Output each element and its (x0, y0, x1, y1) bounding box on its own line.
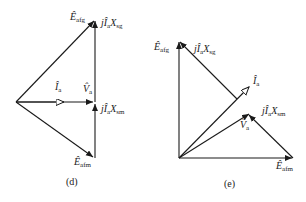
caption-d: (d) (66, 176, 78, 187)
caption-e: (e) (224, 178, 235, 189)
label-j-ia-xsg: jÎaXsg (194, 44, 216, 56)
label-j-ia-xsm: jÎaXsm (101, 104, 125, 116)
label-j-ia-xsm: jÎaXsm (262, 106, 286, 118)
label-e-afg: Êafg (154, 42, 169, 54)
label-e-afm: Êafm (276, 161, 293, 173)
label-e-afg: Êafg (70, 12, 85, 24)
vector-va (179, 114, 249, 158)
label-ia: Îa (55, 82, 61, 94)
diagram-e (179, 42, 293, 158)
label-ia: Îa (253, 76, 259, 88)
vector-ia (179, 87, 249, 158)
vector-j-ia-xsm (249, 115, 293, 158)
label-e-afm: Êafm (74, 157, 91, 169)
label-va: V̂a (240, 120, 249, 132)
vector-e-afm (16, 102, 93, 157)
label-va: V̂a (83, 84, 92, 96)
label-j-ia-xsg: jÎaXsg (101, 18, 123, 30)
phasor-diagrams (0, 0, 306, 202)
